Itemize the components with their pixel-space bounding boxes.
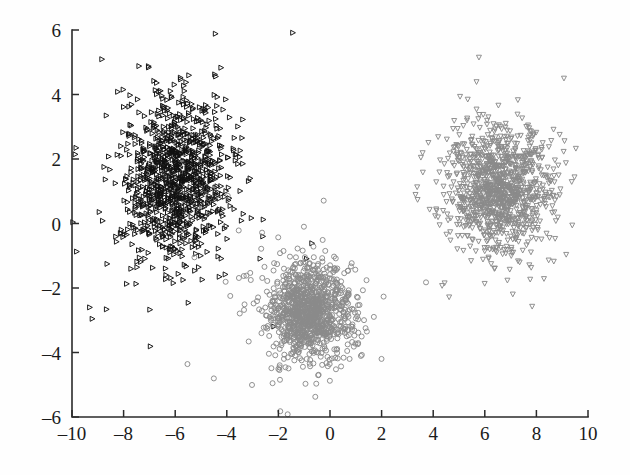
x-tick-label: –4 [216, 423, 237, 444]
y-tick-labels: –6–4–20246 [41, 20, 62, 428]
x-tick-label: –6 [165, 423, 185, 444]
plot-canvas: –10–8–6–4–20246810 –6–4–20246 [0, 0, 630, 475]
y-tick-label: –6 [41, 407, 61, 428]
scatter-plot-figure: –10–8–6–4–20246810 –6–4–20246 [0, 0, 630, 475]
series-cluster-1 [71, 30, 315, 349]
y-tick-label: 0 [52, 214, 62, 235]
x-tick-label: 2 [377, 423, 387, 444]
x-tick-label: 10 [579, 423, 598, 444]
x-tick-label: –10 [57, 423, 87, 444]
x-tick-label: 8 [532, 423, 542, 444]
x-tick-labels: –10–8–6–4–20246810 [57, 423, 598, 444]
y-tick-label: –2 [41, 278, 61, 299]
y-tick-label: 6 [52, 20, 62, 41]
y-tick-label: –4 [41, 343, 62, 364]
x-tick-label: 4 [428, 423, 438, 444]
series-cluster-2 [185, 193, 429, 416]
series-cluster-3 [413, 55, 578, 309]
y-tick-label: 2 [52, 149, 62, 170]
x-tick-label: –8 [113, 423, 133, 444]
y-tick-label: 4 [52, 85, 62, 106]
x-tick-label: 6 [480, 423, 490, 444]
x-tick-label: 0 [325, 423, 335, 444]
x-tick-label: –2 [268, 423, 288, 444]
data-points-layer [71, 30, 579, 417]
